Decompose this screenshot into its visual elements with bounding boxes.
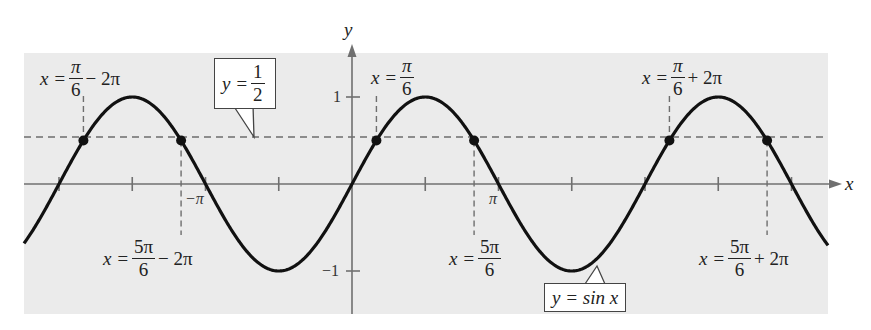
x-tick-label-pi: π: [489, 190, 497, 208]
x-axis-arrow-icon: [829, 180, 842, 189]
intersection-point: [762, 136, 772, 146]
intersection-point: [664, 136, 674, 146]
solution-label-pi6-minus-2pi: x =π6− 2π: [40, 57, 120, 100]
y-axis-label: y: [344, 20, 352, 39]
y-axis-arrow-icon: [348, 44, 357, 57]
solution-label-pi6-plus-2pi: x =π6+ 2π: [642, 56, 722, 99]
sine-diagram: y x 1 −1 −π π y = 1 2 y = sin x x =π6− 2…: [0, 0, 871, 330]
solution-label-5pi6-minus-2pi: x =5π6− 2π: [103, 237, 193, 280]
function-label: y = sin x: [544, 283, 626, 312]
y-tick-label-neg1: −1: [322, 262, 339, 280]
solution-label-pi6: x =π6: [371, 56, 417, 99]
intersection-point: [371, 136, 381, 146]
half-fraction: 1 2: [251, 62, 265, 105]
solution-label-5pi6: x =5π6: [449, 237, 504, 280]
plot-area: [0, 0, 871, 330]
x-axis-label: x: [845, 174, 853, 193]
intersection-point: [469, 136, 479, 146]
solution-label-5pi6-plus-2pi: x =5π6+ 2π: [699, 237, 789, 280]
x-tick-label-neg-pi: −π: [185, 190, 204, 208]
half-line-label: y = 1 2: [214, 58, 276, 109]
intersection-point: [78, 136, 88, 146]
y-tick-label-1: 1: [333, 88, 341, 106]
intersection-point: [176, 136, 186, 146]
half-lhs: y =: [222, 74, 248, 93]
